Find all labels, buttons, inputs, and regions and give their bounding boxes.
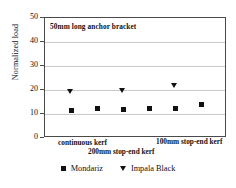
- chart-figure: Normalized load 01020304050 50mm long an…: [0, 0, 236, 188]
- y-axis-tick-label: 10: [20, 109, 38, 117]
- plot-annotation: 50mm long anchor bracket: [50, 22, 136, 31]
- data-point-triangle-down: [119, 88, 125, 93]
- legend-label-impala-black: Impala Black: [131, 164, 175, 173]
- gridline: [45, 66, 225, 67]
- x-axis-label-200mm-stop-end-kerf: 200mm stop-end kerf: [88, 147, 154, 156]
- y-axis-tick-label: 30: [20, 61, 38, 69]
- data-point-triangle-down: [67, 89, 73, 94]
- data-point-triangle-down: [171, 83, 177, 88]
- data-point-square: [147, 106, 152, 111]
- x-axis-label-100mm-stop-end-kerf: 100mm stop-end kerf: [156, 137, 222, 146]
- x-axis-label-continuous-kerf: continuous kerf: [58, 138, 107, 147]
- chart-legend: Mondariz Impala Black: [0, 164, 236, 173]
- triangle-down-marker-icon: [120, 166, 126, 171]
- y-axis-tick-label: 20: [20, 85, 38, 93]
- plot-area: 50mm long anchor bracket: [44, 17, 226, 137]
- legend-item-impala-black: Impala Black: [120, 164, 175, 173]
- y-axis-tick-label: 50: [20, 13, 38, 21]
- y-axis-tick-label: 0: [20, 133, 38, 141]
- gridline: [45, 114, 225, 115]
- data-point-square: [69, 108, 74, 113]
- legend-item-mondariz: Mondariz: [61, 164, 103, 173]
- data-point-square: [121, 107, 126, 112]
- y-axis-tick-label: 40: [20, 37, 38, 45]
- data-point-square: [173, 106, 178, 111]
- data-point-square: [95, 106, 100, 111]
- legend-label-mondariz: Mondariz: [71, 164, 103, 173]
- data-point-square: [199, 102, 204, 107]
- square-marker-icon: [61, 166, 66, 171]
- gridline: [45, 42, 225, 43]
- y-axis-tick-mark: [40, 137, 44, 138]
